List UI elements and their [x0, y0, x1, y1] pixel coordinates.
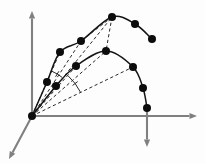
- lower-trajectory-marker-5[interactable]: [139, 84, 147, 92]
- lower-trajectory-marker-3[interactable]: [102, 47, 110, 55]
- lower-trajectory-marker-1[interactable]: [52, 82, 60, 90]
- trajectory-figure: [0, 0, 205, 164]
- lower-trajectory-marker-6[interactable]: [143, 104, 151, 112]
- lower-trajectory-marker-4[interactable]: [129, 63, 137, 71]
- origin-dot: [28, 112, 36, 120]
- upper-trajectory-marker-6[interactable]: [148, 35, 156, 43]
- upper-trajectory-marker-2[interactable]: [56, 48, 64, 56]
- origin-layer: [28, 112, 36, 120]
- lower-trajectory-marker-2[interactable]: [72, 62, 80, 70]
- upper-trajectory-marker-1[interactable]: [43, 78, 51, 86]
- upper-trajectory-marker-5[interactable]: [131, 20, 139, 28]
- figure-root: [0, 0, 205, 164]
- upper-trajectory-marker-3[interactable]: [77, 37, 85, 45]
- upper-trajectory-marker-4[interactable]: [108, 13, 116, 21]
